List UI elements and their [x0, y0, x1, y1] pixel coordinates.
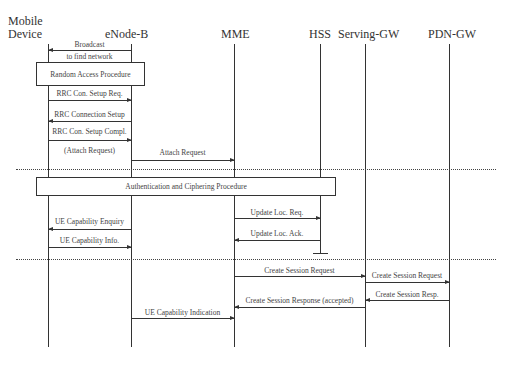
message-update-loc-req	[235, 218, 320, 219]
arrow-right-icon	[127, 98, 132, 102]
message-ue-capability-indication	[132, 318, 234, 319]
participant-label: Device	[8, 28, 43, 41]
message-rrc-setup-req	[49, 100, 131, 101]
sequence-diagram: Mobile Device eNode-B MME HSS Serving-GW…	[0, 0, 510, 366]
message-label: RRC Connection Setup	[48, 110, 131, 119]
arrow-right-icon	[230, 158, 235, 162]
participant-mobile-device: Mobile Device	[8, 15, 43, 41]
message-label: Attach Request	[131, 148, 234, 157]
procedure-authentication-ciphering: Authentication and Ciphering Procedure	[36, 177, 336, 196]
message-label: UE Capability Info.	[48, 236, 131, 245]
phase-separator	[16, 259, 496, 260]
arrow-left-icon	[365, 298, 370, 302]
participant-pdn-gw: PDN-GW	[428, 28, 476, 41]
arrow-left-icon	[48, 227, 53, 231]
arrow-right-icon	[316, 216, 321, 220]
message-ue-capability-info	[49, 247, 131, 248]
message-label: to find network	[48, 52, 131, 61]
participant-serving-gw: Serving-GW	[338, 28, 399, 41]
arrow-right-icon	[230, 316, 235, 320]
message-ue-capability-enquiry	[49, 229, 131, 230]
lifeline-pdn-gw	[449, 44, 450, 347]
message-create-session-request-mme-sgw	[235, 276, 365, 277]
arrow-right-icon	[127, 138, 132, 142]
message-label: RRC Con. Setup Compl.	[48, 127, 131, 136]
message-label: UE Capability Enquiry	[48, 217, 131, 226]
message-label: UE Capability Indication	[131, 308, 234, 317]
phase-separator	[16, 169, 496, 170]
arrow-left-icon	[234, 238, 239, 242]
message-label: Create Session Response (accepted)	[234, 296, 365, 305]
participant-hss: HSS	[309, 28, 331, 41]
lifeline-hss-terminator	[313, 253, 328, 254]
arrow-left-icon	[48, 119, 53, 123]
message-sublabel: (Attach Request)	[48, 146, 131, 155]
message-rrc-setup-compl	[49, 140, 131, 141]
message-label: Update Loc. Req.	[234, 208, 320, 217]
message-update-loc-ack	[235, 240, 320, 241]
participant-mme: MME	[221, 28, 250, 41]
message-label: RRC Con. Setup Req.	[48, 89, 131, 98]
message-broadcast	[49, 50, 131, 51]
procedure-label: Random Access Procedure	[50, 70, 130, 79]
message-label: Broadcast	[48, 40, 131, 49]
arrow-left-icon	[234, 305, 239, 309]
message-attach-request	[132, 160, 234, 161]
message-create-session-request-sgw-pgw	[366, 282, 449, 283]
message-label: Update Loc. Ack.	[234, 229, 320, 238]
procedure-label: Authentication and Ciphering Procedure	[125, 182, 246, 191]
arrow-right-icon	[127, 245, 132, 249]
message-rrc-connection-setup	[49, 121, 131, 122]
lifeline-hss	[320, 44, 321, 253]
message-label: Create Session Request	[365, 271, 449, 280]
message-create-session-response-accepted	[235, 307, 365, 308]
message-create-session-resp	[366, 300, 449, 301]
arrow-right-icon	[445, 280, 450, 284]
message-label: Create Session Resp.	[365, 290, 449, 299]
procedure-random-access: Random Access Procedure	[36, 62, 145, 86]
message-label: Create Session Request	[234, 266, 365, 275]
